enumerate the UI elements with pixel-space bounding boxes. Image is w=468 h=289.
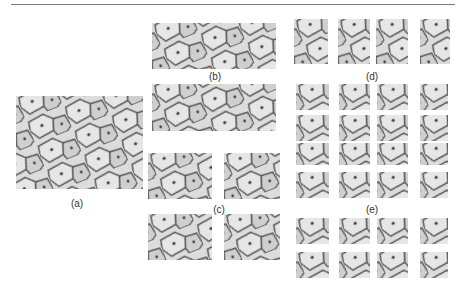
onion-cells-image (339, 252, 370, 278)
image-panel-d-3 (376, 19, 408, 64)
image-panel-e-22 (339, 252, 370, 278)
image-panel-e-14 (339, 172, 370, 198)
onion-cells-image (420, 19, 450, 64)
image-panel-e-4 (420, 84, 448, 110)
onion-cells-image (376, 19, 408, 64)
onion-cells-image (148, 214, 212, 260)
onion-cells-image (339, 115, 370, 141)
image-panel-c-4 (224, 214, 280, 260)
image-panel-e-2 (339, 84, 370, 110)
image-panel-c-2 (224, 153, 280, 199)
top-rule-divider (11, 4, 455, 5)
caption-b: (b) (200, 71, 230, 82)
onion-cells-image (377, 143, 408, 165)
image-panel-e-1 (296, 84, 329, 110)
onion-cells-image (420, 115, 448, 141)
image-panel-c-3 (148, 214, 212, 260)
image-panel-e-8 (420, 115, 448, 141)
onion-cells-image (377, 172, 408, 198)
image-panel-d-4 (420, 19, 450, 64)
image-panel-e-23 (377, 252, 408, 278)
onion-cells-image (377, 115, 408, 141)
image-panel-b-top (152, 23, 276, 69)
image-panel-e-5 (296, 115, 329, 141)
onion-cells-image (296, 252, 329, 278)
image-panel-e-9 (296, 143, 329, 165)
onion-cells-image (420, 252, 448, 278)
image-panel-e-19 (377, 218, 408, 244)
onion-cells-image (16, 96, 143, 189)
onion-cells-image (338, 19, 370, 64)
image-panel-e-24 (420, 252, 448, 278)
onion-cells-image (224, 153, 280, 199)
image-panel-e-18 (339, 218, 370, 244)
onion-cells-image (377, 218, 408, 244)
image-panel-c-1 (148, 153, 212, 199)
onion-cells-image (339, 218, 370, 244)
image-panel-b-bottom (152, 84, 276, 131)
onion-cells-image (152, 84, 276, 131)
onion-cells-image (148, 153, 212, 199)
image-panel-e-10 (339, 143, 370, 165)
onion-cells-image (420, 218, 448, 244)
image-panel-e-11 (377, 143, 408, 165)
onion-cells-image (339, 172, 370, 198)
onion-cells-image (377, 252, 408, 278)
onion-cells-image (296, 84, 329, 110)
image-panel-e-16 (420, 172, 448, 198)
onion-cells-image (420, 84, 448, 110)
caption-e: (e) (357, 204, 387, 215)
image-panel-d-1 (294, 19, 328, 64)
onion-cells-image (224, 214, 280, 260)
caption-d: (d) (357, 71, 387, 82)
image-panel-e-21 (296, 252, 329, 278)
image-panel-e-17 (296, 218, 329, 244)
image-panel-a (16, 96, 143, 189)
onion-cells-image (294, 19, 328, 64)
image-panel-d-2 (338, 19, 370, 64)
image-panel-e-15 (377, 172, 408, 198)
image-panel-e-6 (339, 115, 370, 141)
onion-cells-image (296, 143, 329, 165)
onion-cells-image (420, 172, 448, 198)
image-panel-e-12 (420, 143, 448, 165)
caption-a: (a) (62, 198, 92, 209)
onion-cells-image (339, 84, 370, 110)
onion-cells-image (152, 23, 276, 69)
onion-cells-image (296, 218, 329, 244)
image-panel-e-13 (296, 172, 329, 198)
onion-cells-image (339, 143, 370, 165)
onion-cells-image (420, 143, 448, 165)
image-panel-e-20 (420, 218, 448, 244)
image-panel-e-3 (377, 84, 408, 110)
onion-cells-image (377, 84, 408, 110)
image-panel-e-7 (377, 115, 408, 141)
onion-cells-image (296, 115, 329, 141)
onion-cells-image (296, 172, 329, 198)
